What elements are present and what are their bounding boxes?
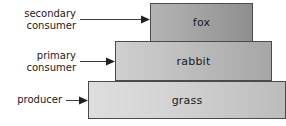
annotation-secondary-consumer: secondary consumer bbox=[0, 8, 76, 32]
trophic-level-grass: grass bbox=[88, 81, 286, 119]
trophic-level-label-grass: grass bbox=[172, 95, 203, 106]
arrow-right-icon-primary bbox=[80, 57, 115, 66]
annotation-primary-consumer: primary consumer bbox=[0, 50, 76, 74]
trophic-level-label-rabbit: rabbit bbox=[177, 56, 211, 67]
arrow-right-icon-secondary bbox=[80, 15, 150, 24]
arrow-right-icon-producer bbox=[66, 96, 88, 105]
trophic-level-rabbit: rabbit bbox=[115, 41, 272, 81]
trophic-level-label-fox: fox bbox=[193, 17, 210, 28]
annotation-producer: producer bbox=[0, 94, 62, 106]
energy-pyramid-diagram: secondary consumer primary consumer prod… bbox=[0, 0, 286, 126]
trophic-level-fox: fox bbox=[150, 3, 253, 42]
